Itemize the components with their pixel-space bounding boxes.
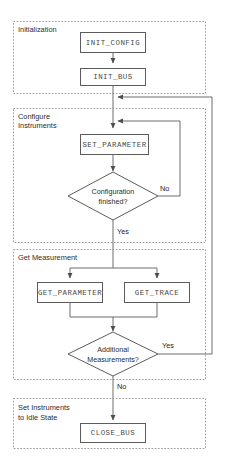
node-additional-measurements[interactable]: Additional Measurements? — [68, 332, 158, 376]
edge-merge-bar — [70, 303, 157, 318]
group-label-configure-line1: Configure — [18, 112, 50, 121]
node-init-bus[interactable]: INIT_BUS — [81, 69, 146, 86]
node-label-config-line1: Configuration — [92, 187, 135, 196]
node-label-config-line2: finished? — [99, 197, 128, 206]
edge-label-config-no: No — [160, 184, 169, 193]
group-label-get-measurement: Get Measurement — [18, 253, 77, 262]
group-label-initialization: Initialization — [18, 25, 57, 34]
node-init-config[interactable]: INIT_CONFIG — [81, 33, 146, 53]
node-label-close-bus: CLOSE_BUS — [91, 429, 135, 437]
node-label-measure-line2: Measurements? — [87, 355, 139, 364]
node-label-set-parameter: SET_PARAMETER — [82, 141, 146, 149]
node-get-parameter[interactable]: GET_PARAMETER — [38, 283, 103, 303]
group-label-configure-line2: Instruments — [18, 121, 57, 130]
group-label-setidle-line1: Set Instruments — [18, 403, 70, 412]
node-get-trace[interactable]: GET_TRACE — [125, 283, 190, 303]
edge-measure-yes-loop — [158, 97, 212, 354]
node-close-bus[interactable]: CLOSE_BUS — [81, 424, 146, 443]
node-label-get-trace: GET_TRACE — [135, 289, 179, 297]
node-label-init-config: INIT_CONFIG — [86, 39, 140, 47]
node-configuration-finished[interactable]: Configuration finished? — [68, 172, 158, 220]
group-label-setidle-line2: to Idle State — [18, 413, 57, 422]
node-label-init-bus: INIT_BUS — [93, 73, 133, 81]
edge-label-measure-no: No — [117, 382, 126, 391]
edge-label-config-yes: Yes — [117, 227, 129, 236]
node-label-get-parameter: GET_PARAMETER — [38, 289, 102, 297]
flowchart-diagram: Initialization INIT_CONFIG INIT_BUS Conf… — [0, 0, 230, 469]
node-label-measure-line1: Additional — [97, 345, 129, 354]
edge-label-measure-yes: Yes — [162, 341, 174, 350]
node-set-parameter[interactable]: SET_PARAMETER — [81, 135, 149, 155]
